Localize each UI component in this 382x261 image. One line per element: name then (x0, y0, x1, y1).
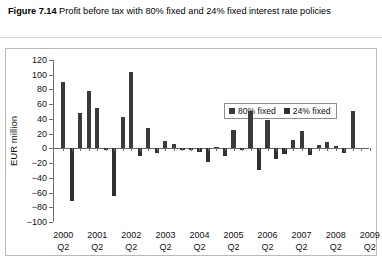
bar (291, 140, 295, 148)
x-axis-tick (199, 148, 200, 151)
x-axis-label-year: 2009 (360, 230, 380, 242)
y-axis-tick-label: 20 (37, 129, 47, 138)
x-axis-tick (370, 148, 371, 151)
y-axis-tick-label: 40 (37, 114, 47, 123)
y-axis-tick (49, 89, 53, 90)
bar (248, 111, 252, 149)
y-axis-tick (49, 134, 53, 135)
x-axis-label-quarter: Q2 (292, 242, 312, 254)
x-axis-label: 2001Q2 (87, 230, 107, 253)
x-axis-tick (191, 148, 192, 151)
x-axis-tick (80, 148, 81, 151)
y-axis-tick-label: 120 (32, 56, 47, 65)
x-axis-label: 2007Q2 (292, 230, 312, 253)
bar (95, 108, 99, 149)
x-axis-label-quarter: Q2 (53, 242, 73, 254)
x-axis-label-year: 2002 (121, 230, 141, 242)
x-axis-tick (268, 148, 269, 151)
x-axis-label: 2002Q2 (121, 230, 141, 253)
bar (351, 111, 355, 149)
x-axis-label: 2009Q2 (360, 230, 380, 253)
x-axis-label-year: 2003 (155, 230, 175, 242)
x-axis-zero-line (53, 148, 369, 149)
y-axis-tick-label: −80 (32, 203, 47, 212)
x-axis-label-year: 2006 (258, 230, 278, 242)
x-axis-tick (310, 148, 311, 151)
figure-number: Figure 7.14 (8, 6, 57, 16)
figure-caption: Figure 7.14 Profit before tax with 80% f… (8, 5, 374, 17)
x-axis-tick (259, 148, 260, 151)
x-axis-label-year: 2001 (87, 230, 107, 242)
x-axis-tick (344, 148, 345, 151)
x-axis-tick (72, 148, 73, 151)
y-axis-tick (49, 178, 53, 179)
x-axis-label: 2008Q2 (326, 230, 346, 253)
x-axis-tick (123, 148, 124, 151)
bar (300, 131, 304, 148)
bar (70, 148, 74, 200)
x-axis-tick (302, 148, 303, 151)
x-axis-label-quarter: Q2 (258, 242, 278, 254)
y-axis-title: EUR million (8, 116, 19, 166)
x-axis-label-year: 2007 (292, 230, 312, 242)
y-axis-tick-label: −60 (32, 188, 47, 197)
x-axis-label-year: 2000 (53, 230, 73, 242)
x-axis-label: 2003Q2 (155, 230, 175, 253)
bar (129, 72, 133, 149)
x-axis-tick (336, 148, 337, 151)
figure-page: Figure 7.14 Profit before tax with 80% f… (0, 0, 382, 261)
bar (61, 82, 65, 148)
y-axis-tick-label: 60 (37, 100, 47, 109)
bar (163, 141, 167, 148)
x-axis-tick (234, 148, 235, 151)
x-axis-tick (89, 148, 90, 151)
x-axis-tick (293, 148, 294, 151)
x-axis-label: 2000Q2 (53, 230, 73, 253)
y-axis-tick (49, 119, 53, 120)
y-axis-tick-label: −20 (32, 159, 47, 168)
x-axis-label-quarter: Q2 (326, 242, 346, 254)
y-axis-tick-label: −100 (27, 218, 47, 227)
x-axis-label: 2006Q2 (258, 230, 278, 253)
x-axis-tick (225, 148, 226, 151)
x-axis-label-quarter: Q2 (155, 242, 175, 254)
x-axis-label-quarter: Q2 (189, 242, 209, 254)
x-axis-tick (114, 148, 115, 151)
x-axis-tick (131, 148, 132, 151)
bar (78, 113, 82, 148)
y-axis-tick-label: −40 (32, 173, 47, 182)
chart-frame: 80% fixed24% fixed EUR million 120100806… (5, 48, 377, 256)
y-axis-tick (49, 75, 53, 76)
x-axis-tick (216, 148, 217, 151)
x-axis-label-quarter: Q2 (360, 242, 380, 254)
y-axis-line (53, 60, 54, 222)
bar (146, 128, 150, 149)
x-axis-label-quarter: Q2 (121, 242, 141, 254)
x-axis-tick (148, 148, 149, 151)
x-axis-tick (251, 148, 252, 151)
x-axis-tick (319, 148, 320, 151)
x-axis-label: 2004Q2 (189, 230, 209, 253)
x-axis-tick (327, 148, 328, 151)
x-axis-label-quarter: Q2 (223, 242, 243, 254)
bar (325, 142, 329, 149)
x-axis-tick (242, 148, 243, 151)
x-axis-tick (97, 148, 98, 151)
y-axis-tick-label: 100 (32, 70, 47, 79)
x-axis-label-year: 2008 (326, 230, 346, 242)
bar (265, 120, 269, 148)
x-axis-label-quarter: Q2 (87, 242, 107, 254)
bar (231, 130, 235, 148)
x-axis-label-year: 2005 (223, 230, 243, 242)
x-axis-tick (140, 148, 141, 151)
plot-area: EUR million 120100806040200−20−40−60−80−… (54, 60, 369, 222)
x-axis-tick (276, 148, 277, 151)
y-axis-tick (49, 222, 53, 223)
x-axis-tick (157, 148, 158, 151)
y-axis-tick (49, 193, 53, 194)
x-axis-tick (63, 148, 64, 151)
x-axis-tick (106, 148, 107, 151)
y-axis-tick-label: 80 (37, 85, 47, 94)
x-axis-tick (208, 148, 209, 151)
y-axis-tick (49, 60, 53, 61)
